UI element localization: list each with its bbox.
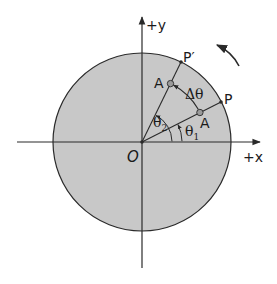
origin-dot [140,140,144,144]
particle-a-final-label: A [154,75,164,91]
point-p-label: P [224,91,232,107]
particle-a-initial-label: A [200,115,210,131]
theta2-subscript: 2 [161,123,167,133]
rotating-disk-diagram: +y +x O P P′ A A Δθ θ2 θ1 [0,0,277,284]
theta1-subscript: 1 [193,132,199,142]
rotation-direction-arrow-icon [217,45,239,66]
particle-a-final [167,80,173,86]
x-axis-label: +x [243,149,263,165]
point-p-prime-label: P′ [183,49,195,65]
delta-theta-label: Δθ [185,86,204,102]
origin-label: O [127,148,139,166]
y-axis-label: +y [146,17,166,33]
point-p-dot [219,100,223,104]
